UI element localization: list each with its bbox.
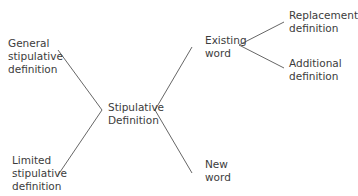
node-additional-definition: Additional definition bbox=[289, 57, 342, 83]
node-text: definition bbox=[12, 180, 67, 193]
node-text: stipulative bbox=[8, 50, 63, 63]
node-text: word bbox=[205, 47, 247, 60]
node-text: General bbox=[8, 37, 63, 50]
node-text: Replacement bbox=[289, 9, 358, 22]
node-text: Limited bbox=[12, 154, 67, 167]
node-text: Additional bbox=[289, 57, 342, 70]
node-replacement-definition: Replacement definition bbox=[289, 9, 358, 35]
node-text: definition bbox=[289, 22, 358, 35]
node-text: definition bbox=[8, 63, 63, 76]
node-text: New bbox=[205, 158, 231, 171]
node-text: definition bbox=[289, 70, 342, 83]
node-text: Definition bbox=[108, 114, 164, 127]
line-general-to-root bbox=[58, 50, 102, 110]
node-new-word: New word bbox=[205, 158, 231, 184]
node-existing-word: Existing word bbox=[205, 34, 247, 60]
node-limited-stipulative-definition: Limited stipulative definition bbox=[12, 154, 67, 193]
node-text: stipulative bbox=[12, 167, 67, 180]
node-text: word bbox=[205, 171, 231, 184]
node-text: Existing bbox=[205, 34, 247, 47]
node-general-stipulative-definition: General stipulative definition bbox=[8, 37, 63, 76]
node-text: Stipulative bbox=[108, 101, 164, 114]
node-stipulative-definition: Stipulative Definition bbox=[108, 101, 164, 127]
